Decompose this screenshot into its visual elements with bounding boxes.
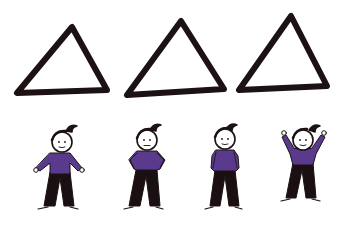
figure-4-arms-raised (281, 125, 326, 201)
illustration (0, 0, 346, 225)
figure-3-hands-in-pockets (205, 124, 242, 209)
triangle-3 (239, 16, 327, 90)
figure-1-arms-out (34, 125, 85, 209)
triangles-row (17, 16, 327, 95)
triangle-2 (127, 21, 224, 95)
triangle-1 (17, 27, 107, 93)
figure-2-hands-on-hips (124, 124, 165, 209)
